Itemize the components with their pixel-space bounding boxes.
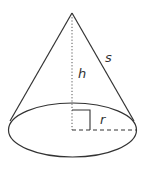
cone-left-side [10,13,72,121]
right-angle-marker [72,110,90,130]
cone-diagram: h s r [0,0,143,169]
cone-figure: h s r [0,0,143,169]
height-label: h [78,66,86,81]
radius-label: r [100,112,107,127]
slant-label: s [105,50,112,65]
